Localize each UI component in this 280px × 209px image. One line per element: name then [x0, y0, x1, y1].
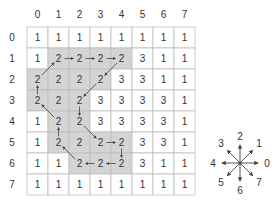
cell-value: 3: [140, 158, 146, 169]
cell-value: 1: [35, 116, 41, 127]
cell-value: 3: [98, 95, 104, 106]
cell-value: 1: [161, 53, 167, 64]
cell-value: 2: [98, 158, 104, 169]
cell-value: 2: [98, 53, 104, 64]
cell-value: 1: [35, 32, 41, 43]
direction-label: 7: [256, 177, 262, 188]
column-labels: 01234567: [35, 9, 188, 20]
row-label: 0: [9, 32, 15, 43]
column-label: 6: [161, 9, 167, 20]
direction-label: 1: [256, 138, 262, 149]
cell-value: 1: [35, 137, 41, 148]
cell-value: 2: [77, 74, 83, 85]
cell-value: 2: [77, 137, 83, 148]
cell-value: 3: [140, 53, 146, 64]
column-label: 5: [140, 9, 146, 20]
cell-value: 3: [98, 116, 104, 127]
cell-value: 1: [161, 74, 167, 85]
row-label: 3: [9, 95, 15, 106]
column-label: 2: [77, 9, 83, 20]
cell-value: 2: [77, 53, 83, 64]
cell-value: 2: [119, 137, 125, 148]
cell-value: 1: [182, 53, 188, 64]
row-label: 4: [9, 116, 15, 127]
cell-value: 1: [98, 179, 104, 190]
direction-label: 0: [264, 158, 270, 169]
direction-arrow-icon: [227, 150, 240, 163]
compass-center: [239, 162, 242, 165]
cell-value: 2: [56, 53, 62, 64]
cell-value: 2: [77, 95, 83, 106]
cell-value: 3: [140, 95, 146, 106]
cell-value: 2: [56, 137, 62, 148]
cell-value: 1: [182, 74, 188, 85]
cell-value: 1: [56, 32, 62, 43]
cell-value: 3: [161, 95, 167, 106]
cell-value: 1: [182, 137, 188, 148]
direction-compass: 01234567: [210, 131, 270, 196]
cell-value: 3: [119, 95, 125, 106]
cell-value: 2: [119, 158, 125, 169]
direction-arrow-icon: [240, 163, 253, 176]
cell-value: 1: [35, 158, 41, 169]
row-label: 7: [9, 179, 15, 190]
direction-label: 5: [218, 177, 224, 188]
direction-label: 3: [218, 138, 224, 149]
cell-value: 2: [56, 116, 62, 127]
cell-value: 2: [98, 137, 104, 148]
cell-value: 2: [98, 74, 104, 85]
cell-value: 1: [140, 179, 146, 190]
direction-arrow-icon: [227, 163, 240, 176]
direction-label: 6: [237, 185, 243, 196]
cell-value: 2: [56, 74, 62, 85]
cell-value: 1: [182, 158, 188, 169]
row-label: 2: [9, 74, 15, 85]
cell-value: 2: [77, 158, 83, 169]
direction-label: 2: [237, 131, 243, 142]
cell-value: 2: [56, 95, 62, 106]
cell-value: 3: [119, 116, 125, 127]
column-label: 0: [35, 9, 41, 20]
cell-value: 1: [35, 53, 41, 64]
chain-code-diagram: 01234567 01234567 1111111112222311222233…: [0, 0, 280, 209]
cell-value: 2: [119, 53, 125, 64]
cell-value: 1: [182, 95, 188, 106]
column-label: 1: [56, 9, 62, 20]
cell-value: 3: [161, 116, 167, 127]
row-label: 5: [9, 137, 15, 148]
cell-value: 1: [56, 179, 62, 190]
cell-value: 3: [140, 116, 146, 127]
cell-value: 1: [119, 179, 125, 190]
cell-value: 1: [161, 32, 167, 43]
cell-value: 1: [182, 179, 188, 190]
direction-arrow-icon: [240, 150, 253, 163]
direction-label: 4: [210, 158, 216, 169]
cell-value: 1: [161, 179, 167, 190]
cell-value: 1: [119, 32, 125, 43]
cell-value: 1: [98, 32, 104, 43]
cell-value: 1: [35, 179, 41, 190]
cell-value: 1: [140, 32, 146, 43]
cell-value: 2: [35, 95, 41, 106]
cell-value: 3: [140, 137, 146, 148]
row-labels: 01234567: [9, 32, 15, 190]
cell-value: 1: [56, 158, 62, 169]
cell-value: 3: [140, 74, 146, 85]
row-label: 1: [9, 53, 15, 64]
cell-value: 2: [35, 74, 41, 85]
cell-value: 1: [182, 32, 188, 43]
cell-value: 2: [77, 116, 83, 127]
cell-value: 1: [161, 158, 167, 169]
cell-value: 1: [77, 32, 83, 43]
cell-value: 3: [161, 137, 167, 148]
column-label: 4: [119, 9, 125, 20]
diagram-canvas: 01234567 01234567 1111111112222311222233…: [0, 0, 280, 209]
cell-value: 1: [182, 116, 188, 127]
column-label: 7: [182, 9, 188, 20]
row-label: 6: [9, 158, 15, 169]
cell-value: 1: [77, 179, 83, 190]
pixel-grid: [27, 27, 195, 195]
cell-value: 3: [119, 74, 125, 85]
column-label: 3: [98, 9, 104, 20]
